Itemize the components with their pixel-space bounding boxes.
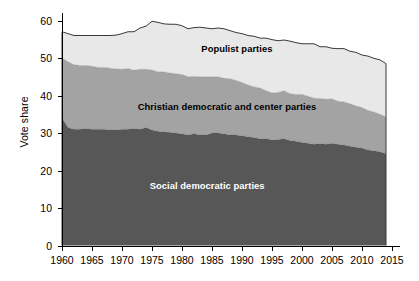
vote-share-area-chart: Vote share 0102030405060 196019651970197…: [0, 0, 419, 281]
series-label-christian: Christian democratic and center parties: [138, 101, 317, 112]
series-label-social: Social democratic parties: [150, 180, 265, 191]
series-label-populist: Populist parties: [201, 43, 272, 54]
